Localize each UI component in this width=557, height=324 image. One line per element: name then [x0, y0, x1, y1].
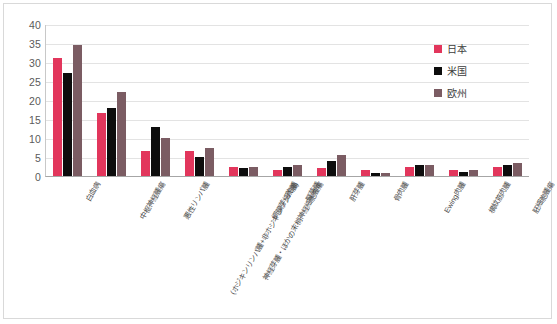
bar-日本 [53, 58, 62, 176]
bar-group [485, 25, 529, 176]
x-tick-label: 骨肉腫 [393, 181, 411, 203]
bar-欧州 [513, 163, 522, 176]
bar-日本 [273, 170, 282, 176]
x-tick-label: Ewing肉腫 [443, 181, 467, 215]
bar-欧州 [469, 170, 478, 176]
x-tick-label: 肝芽腫 [349, 181, 367, 203]
legend-label: 日本 [447, 41, 467, 56]
bar-group [353, 25, 397, 176]
bar-日本 [361, 170, 370, 176]
bar-米国 [459, 172, 468, 176]
x-tick-label: 悪性リンパ腫 [183, 181, 211, 222]
bar-日本 [229, 167, 238, 177]
bar-米国 [151, 127, 160, 176]
y-tick-label: 5 [35, 152, 41, 164]
bar-欧州 [293, 165, 302, 176]
chart-legend: 日本米国欧州 [434, 41, 467, 100]
bar-米国 [195, 157, 204, 176]
legend-swatch-icon [434, 45, 442, 53]
x-tick-label: 横紋筋肉腫 [488, 181, 513, 216]
y-tick-label: 20 [29, 95, 41, 107]
bar-米国 [327, 161, 336, 176]
bar-group [178, 25, 222, 176]
y-tick-label: 35 [29, 38, 41, 50]
bar-米国 [63, 73, 72, 176]
bar-日本 [185, 151, 194, 176]
bar-欧州 [73, 45, 82, 176]
bar-group [90, 25, 134, 176]
y-tick-label: 40 [29, 19, 41, 31]
chart-figure: 0510152025303540 白血病中枢神経腫瘍悪性リンパ腫(ホジキンリンパ… [3, 3, 552, 319]
legend-swatch-icon [434, 67, 442, 75]
legend-swatch-icon [434, 89, 442, 97]
bar-米国 [415, 165, 424, 176]
bar-group [222, 25, 266, 176]
bar-日本 [97, 113, 106, 176]
bar-米国 [371, 173, 380, 176]
bar-欧州 [249, 167, 258, 177]
bar-group [266, 25, 310, 176]
y-tick-label: 0 [35, 171, 41, 183]
x-axis-labels: 白血病中枢神経腫瘍悪性リンパ腫(ホジキンリンパ腫+非ホジキンリンパ腫)神経芽腫・… [45, 178, 529, 303]
bar-group [309, 25, 353, 176]
bar-米国 [239, 168, 248, 176]
bar-日本 [317, 168, 326, 176]
bar-欧州 [337, 155, 346, 176]
y-tick-label: 30 [29, 57, 41, 69]
bar-欧州 [425, 165, 434, 176]
legend-item: 日本 [434, 41, 467, 56]
bar-欧州 [117, 92, 126, 176]
bar-日本 [405, 167, 414, 177]
bar-日本 [141, 151, 150, 176]
x-tick-label: 胚細胞腫瘍 [532, 181, 557, 216]
y-tick-label: 15 [29, 114, 41, 126]
bar-欧州 [205, 148, 214, 177]
bar-米国 [503, 165, 512, 176]
bar-米国 [107, 108, 116, 176]
legend-label: 米国 [447, 63, 467, 78]
x-tick-label: 白血病 [85, 181, 103, 203]
x-tick-label: 中枢神経腫瘍 [139, 181, 167, 222]
legend-item: 欧州 [434, 85, 467, 100]
bar-group [134, 25, 178, 176]
bar-欧州 [161, 138, 170, 176]
legend-item: 米国 [434, 63, 467, 78]
bar-日本 [493, 167, 502, 177]
bar-group [46, 25, 90, 176]
x-tick-label: 網膜芽細胞腫 [271, 181, 299, 222]
legend-label: 欧州 [447, 85, 467, 100]
bar-日本 [449, 170, 458, 176]
y-tick-label: 10 [29, 133, 41, 145]
bar-欧州 [381, 173, 390, 176]
bar-米国 [283, 167, 292, 177]
y-tick-label: 25 [29, 76, 41, 88]
